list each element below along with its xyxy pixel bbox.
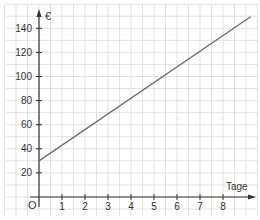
y-axis-label: € (45, 10, 51, 22)
y-tick-label: 80 (21, 95, 33, 106)
axes (30, 9, 256, 207)
x-tick-label: 3 (105, 201, 111, 212)
y-tick-label: 140 (15, 23, 32, 34)
x-tick-label: 8 (220, 201, 226, 212)
x-axis-arrow-icon (248, 195, 256, 200)
x-tick-label: 2 (82, 201, 88, 212)
x-tick-label: 5 (151, 201, 157, 212)
x-tick-label: 1 (59, 201, 65, 212)
y-tick-label: 120 (15, 47, 32, 58)
y-tick-label: 100 (15, 71, 32, 82)
y-axis-arrow-icon (37, 9, 42, 17)
y-tick-label: 40 (21, 143, 33, 154)
y-tick-label: 60 (21, 119, 33, 130)
x-tick-label: 7 (197, 201, 203, 212)
x-tick-label: 6 (174, 201, 180, 212)
ticks: 1234567820406080100120140 (15, 23, 226, 212)
y-tick-label: 20 (21, 167, 33, 178)
x-tick-label: 4 (128, 201, 134, 212)
line-chart: 1234567820406080100120140 € Tage O (0, 0, 260, 220)
grid (5, 4, 259, 220)
origin-label: O (28, 199, 37, 211)
x-axis-label: Tage (226, 181, 248, 192)
